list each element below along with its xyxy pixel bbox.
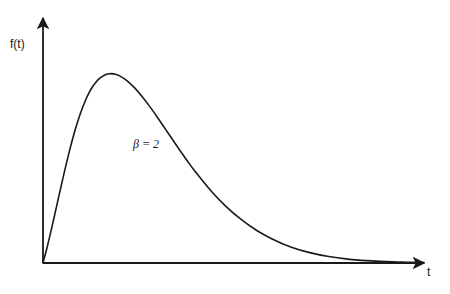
density-curve [43,74,424,263]
beta-annotation: β = 2 [133,138,159,150]
y-axis-label: f(t) [10,38,25,50]
plot-area [0,0,450,294]
weibull-density-figure: f(t) t β = 2 [0,0,450,294]
x-axis-label: t [427,266,430,278]
